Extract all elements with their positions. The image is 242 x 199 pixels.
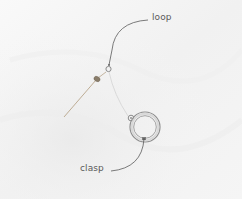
loop-label: loop bbox=[152, 13, 172, 22]
photo-illustration bbox=[0, 0, 242, 199]
annotated-photo: loop clasp bbox=[0, 0, 242, 199]
clasp-label: clasp bbox=[80, 164, 104, 173]
